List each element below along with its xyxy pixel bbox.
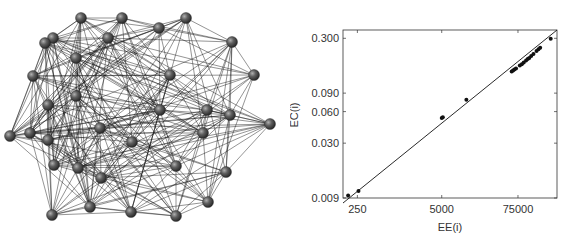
network-edge [176, 133, 203, 166]
network-node [127, 137, 138, 148]
network-node [73, 163, 84, 174]
y-tick-label: 0.009 [311, 192, 339, 204]
scatter-plot: 0.0090.0300.0600.0900.300 250500075000 E… [290, 0, 574, 239]
data-point [514, 66, 518, 70]
network-node [76, 13, 87, 24]
network-edge [159, 28, 254, 75]
network-node [225, 110, 236, 121]
network-edge [108, 38, 170, 75]
x-tick-label: 75000 [503, 203, 534, 215]
network-edge [186, 18, 232, 42]
network-node [43, 100, 54, 111]
data-point [346, 194, 350, 198]
data-point [464, 98, 468, 102]
network-node [155, 105, 166, 116]
network-edge [101, 178, 208, 202]
x-axis-ticks: 250500075000 [348, 30, 533, 215]
network-node [202, 105, 213, 116]
network-edge [132, 133, 203, 142]
network-node [171, 161, 182, 172]
x-tick-label: 5000 [429, 203, 453, 215]
data-point [538, 46, 542, 50]
data-point [356, 189, 360, 193]
y-axis-label: EC(i) [290, 102, 300, 127]
network-node [5, 131, 16, 142]
network-node [28, 71, 39, 82]
network-node [249, 70, 260, 81]
network-node [181, 13, 192, 24]
network-edge [45, 43, 48, 140]
network-node [95, 123, 106, 134]
y-axis-ticks: 0.0090.0300.0600.0900.300 [311, 32, 557, 204]
network-edge [48, 140, 52, 215]
network-node [171, 211, 182, 222]
y-tick-label: 0.300 [311, 32, 339, 44]
network-edge [207, 42, 232, 110]
network-node [85, 202, 96, 213]
plot-frame [343, 30, 557, 198]
x-axis-label: EE(i) [438, 221, 462, 233]
network-node [198, 128, 209, 139]
network-node [203, 197, 214, 208]
network-node [49, 160, 60, 171]
y-tick-label: 0.090 [311, 87, 339, 99]
network-node [117, 13, 128, 24]
y-tick-label: 0.060 [311, 106, 339, 118]
network-node [227, 37, 238, 48]
network-edge [108, 28, 159, 38]
network-edge [170, 75, 207, 110]
data-point [549, 37, 553, 41]
network-node [71, 91, 82, 102]
y-tick-label: 0.030 [311, 137, 339, 149]
network-node [71, 53, 82, 64]
network-node [221, 167, 232, 178]
network-edge [176, 166, 208, 202]
x-tick-label: 250 [348, 203, 366, 215]
network-graph [0, 0, 290, 239]
network-node [96, 173, 107, 184]
network-node [43, 135, 54, 146]
network-node [265, 119, 276, 130]
data-point [531, 52, 535, 56]
network-node [40, 38, 51, 49]
network-node [25, 128, 36, 139]
fit-line [343, 30, 557, 203]
network-edge [108, 38, 207, 110]
network-node [103, 33, 114, 44]
network-node [154, 23, 165, 34]
network-node [165, 70, 176, 81]
network-node [126, 207, 137, 218]
network-node [47, 210, 58, 221]
data-point [441, 115, 445, 119]
